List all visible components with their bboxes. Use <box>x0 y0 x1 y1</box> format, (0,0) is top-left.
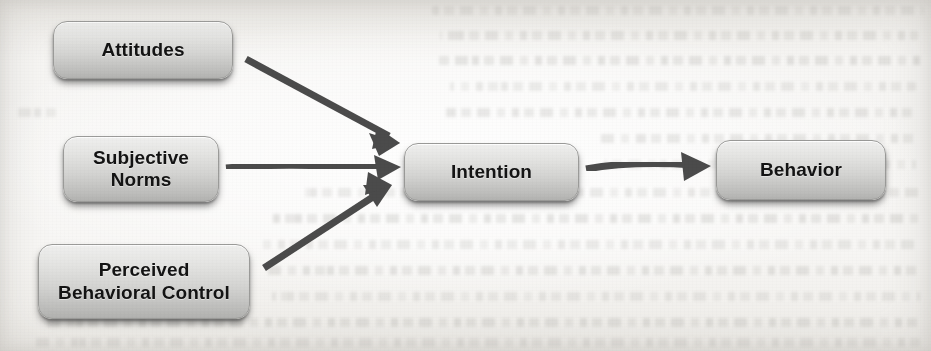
node-pbc-label-line2: Behavioral Control <box>58 282 230 303</box>
edge-attitudes-to-intention <box>246 59 400 156</box>
edge-subjective-norms-to-intention <box>226 155 401 180</box>
ghost-text-line <box>450 82 916 91</box>
ghost-text-line <box>432 6 924 15</box>
edge-intention-to-behavior <box>586 152 711 181</box>
node-intention[interactable]: Intention <box>404 143 579 201</box>
edge-pbc-to-intention <box>264 172 392 268</box>
ghost-text-line <box>262 240 920 249</box>
node-subjective-norms-label: Subjective Norms <box>87 147 195 192</box>
node-subjective-norms-label-line2: Norms <box>111 169 172 190</box>
node-behavior[interactable]: Behavior <box>716 140 886 200</box>
ghost-text-line <box>268 214 920 223</box>
ghost-text-line <box>272 292 920 301</box>
ghost-text-line <box>30 338 920 347</box>
node-perceived-behavioral-control-label: Perceived Behavioral Control <box>52 259 236 304</box>
node-subjective-norms-label-line1: Subjective <box>93 147 189 168</box>
node-perceived-behavioral-control[interactable]: Perceived Behavioral Control <box>38 244 250 319</box>
node-behavior-label: Behavior <box>754 159 848 181</box>
node-pbc-label-line1: Perceived <box>99 259 190 280</box>
ghost-text-line <box>44 318 920 327</box>
node-intention-label: Intention <box>445 161 538 183</box>
ghost-text-line <box>266 266 920 275</box>
node-attitudes[interactable]: Attitudes <box>53 21 233 79</box>
ghost-text-line <box>438 56 924 65</box>
ghost-text-line <box>440 31 918 40</box>
ghost-text-line <box>444 108 916 117</box>
ghost-text-line <box>12 108 56 117</box>
theory-of-planned-behavior-figure: Attitudes Subjective Norms Perceived Beh… <box>0 0 931 351</box>
node-attitudes-label: Attitudes <box>95 39 190 61</box>
node-subjective-norms[interactable]: Subjective Norms <box>63 136 219 202</box>
